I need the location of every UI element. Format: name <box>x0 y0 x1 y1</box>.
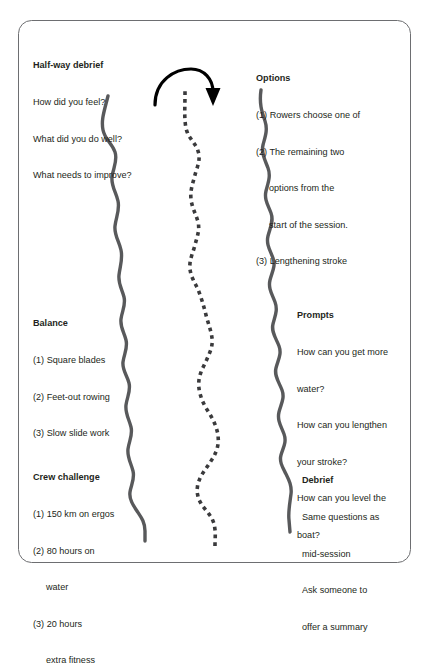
block-line: Ask someone to <box>302 584 379 596</box>
block-line: mid-session <box>302 548 379 560</box>
block-line: (2) The remaining two <box>256 146 360 158</box>
block-half-way-debrief: Half-way debrief How did you feel? What … <box>33 35 132 206</box>
block-line: What needs to improve? <box>33 169 132 181</box>
block-line: Same questions as <box>302 511 379 523</box>
block-line: How can you lengthen <box>297 419 388 431</box>
block-balance: Balance (1) Square blades (2) Feet-out r… <box>33 293 110 464</box>
block-line: What did you do well? <box>33 133 132 145</box>
block-line: start of the session. <box>256 219 360 231</box>
block-line: How did you feel? <box>33 96 132 108</box>
block-line: (2) 80 hours on <box>33 545 114 557</box>
block-options: Options (1) Rowers choose one of (2) The… <box>256 48 360 292</box>
block-line: (3) Lengthening stroke <box>256 255 360 267</box>
block-line: extra fitness <box>33 654 114 666</box>
block-line: (3) 20 hours <box>33 618 114 630</box>
block-line: (1) Rowers choose one of <box>256 109 360 121</box>
block-line: How can you get more <box>297 346 388 358</box>
block-title: Prompts <box>297 309 388 321</box>
block-title: Crew challenge <box>33 471 114 483</box>
block-title: Half-way debrief <box>33 59 132 71</box>
block-line: water? <box>297 383 388 395</box>
block-line: options from the <box>256 182 360 194</box>
block-line: water <box>33 581 114 593</box>
block-line: offer a summary <box>302 621 379 633</box>
block-line: (2) Feet-out rowing <box>33 391 110 403</box>
block-line: (1) Square blades <box>33 354 110 366</box>
block-title: Balance <box>33 317 110 329</box>
block-title: Debrief <box>302 474 379 486</box>
block-line: (3) Slow slide work <box>33 427 110 439</box>
block-debrief: Debrief Same questions as mid-session As… <box>302 450 379 657</box>
block-title: Options <box>256 72 360 84</box>
block-line: (1) 150 km on ergos <box>33 508 114 520</box>
block-crew-challenge: Crew challenge (1) 150 km on ergos (2) 8… <box>33 447 114 667</box>
